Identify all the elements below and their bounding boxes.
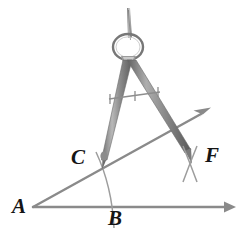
point-label-A: A: [12, 196, 26, 217]
compass-needle-leg: [102, 60, 133, 160]
geometry-figure: A B C F: [0, 0, 239, 234]
point-label-F: F: [205, 145, 219, 166]
arrow-head-icon: [224, 202, 236, 213]
ray-AC: [33, 108, 211, 208]
geometry-canvas: [0, 0, 239, 234]
compass-pencil-leg: [127, 60, 191, 153]
point-label-B: B: [108, 208, 122, 229]
point-label-C: C: [71, 147, 85, 168]
ray-AB: [33, 202, 236, 213]
